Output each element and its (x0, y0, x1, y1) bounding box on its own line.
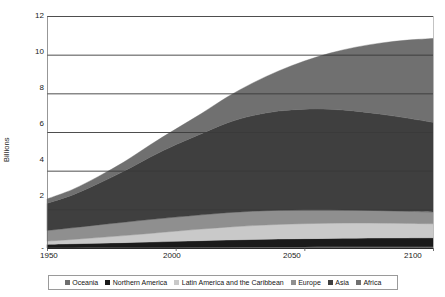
legend-item[interactable]: Asia (328, 279, 349, 286)
legend-item[interactable]: Africa (356, 279, 381, 286)
legend-label: Northern America (113, 279, 167, 286)
legend-label: Africa (363, 279, 381, 286)
legend-item[interactable]: Northern America (105, 279, 167, 286)
chart-legend: OceaniaNorthern AmericaLatin America and… (48, 275, 398, 290)
x-axis-tick: 2050 (283, 252, 301, 260)
legend-swatch-icon (328, 280, 333, 285)
plot-area (0, 0, 445, 297)
legend-label: Asia (335, 279, 349, 286)
legend-item[interactable]: Oceania (65, 279, 99, 286)
legend-swatch-icon (291, 280, 296, 285)
legend-label: Europe (298, 279, 321, 286)
legend-swatch-icon (174, 280, 179, 285)
legend-swatch-icon (65, 280, 70, 285)
legend-label: Latin America and the Caribbean (182, 279, 284, 286)
legend-label: Oceania (72, 279, 98, 286)
legend-swatch-icon (105, 280, 110, 285)
x-axis-tick: 2100 (404, 252, 422, 260)
x-axis-tick: 2000 (163, 252, 181, 260)
legend-item[interactable]: Europe (291, 279, 321, 286)
population-area-chart: Billions 12 10 8 6 4 2 - 1950 2000 2050 … (0, 0, 445, 297)
x-axis-tick: 1950 (40, 252, 58, 260)
legend-item[interactable]: Latin America and the Caribbean (174, 279, 283, 286)
legend-swatch-icon (356, 280, 361, 285)
